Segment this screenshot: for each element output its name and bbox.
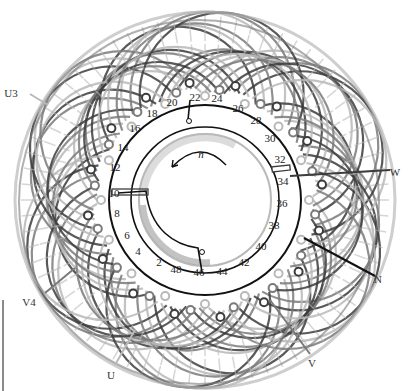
slot-number-label: 48 <box>171 263 183 275</box>
slot-number-label: 6 <box>124 229 130 241</box>
mesh-tick <box>50 213 62 214</box>
junction-46 <box>200 250 205 255</box>
slot-number-label: 20 <box>167 96 179 108</box>
mesh-tick <box>189 371 190 383</box>
slot-terminal <box>289 128 297 136</box>
mesh-tick <box>363 185 375 186</box>
slot-terminal <box>87 166 95 174</box>
slot-terminal <box>187 306 195 314</box>
slot-terminal <box>305 196 313 204</box>
mesh-tick <box>22 215 34 216</box>
slot-number-label: 14 <box>118 141 130 153</box>
mesh-tick <box>219 30 220 42</box>
mesh-tick <box>40 156 52 159</box>
slot-terminal <box>260 298 268 306</box>
mesh-tick <box>242 339 245 351</box>
mesh-tick <box>95 322 103 331</box>
slot-terminal <box>230 303 238 311</box>
slot-terminal <box>318 181 326 189</box>
mesh-tick <box>218 343 219 355</box>
slot-terminal <box>128 270 136 278</box>
mesh-tick <box>219 358 220 370</box>
slot-terminal <box>129 290 137 298</box>
slot-terminal <box>171 310 179 318</box>
terminal-label-u: U <box>107 369 115 381</box>
mesh-tick <box>359 241 371 244</box>
mesh-tick <box>22 184 34 185</box>
slot-terminal <box>232 82 240 90</box>
slot-terminal <box>297 156 305 164</box>
mesh-tick <box>191 343 192 355</box>
mesh-tick <box>50 186 62 187</box>
mesh-tick <box>95 69 103 78</box>
slot-number-label: 26 <box>233 102 245 114</box>
slot-number-label: 22 <box>190 91 201 103</box>
slot-terminal <box>315 227 323 235</box>
mesh-tick <box>307 69 315 78</box>
slot-terminal <box>161 292 169 300</box>
slot-number-label: 34 <box>278 175 290 187</box>
slot-number-label: 38 <box>269 219 281 231</box>
rings <box>84 79 326 321</box>
mesh-tick <box>37 228 49 230</box>
slot-terminal <box>297 252 305 260</box>
junction-22 <box>187 119 192 124</box>
mesh-tick <box>40 241 52 244</box>
slot-number-label: 40 <box>256 240 268 252</box>
mesh-tick <box>348 186 360 187</box>
slot-terminal <box>133 108 141 116</box>
terminal-label-v4: V4 <box>22 296 36 308</box>
slot-number-label: 30 <box>265 132 277 144</box>
mesh-tick <box>259 39 263 50</box>
mesh-tick <box>354 254 365 258</box>
mesh-tick <box>50 128 61 133</box>
mesh-tick <box>359 156 371 159</box>
slot-terminal <box>105 236 113 244</box>
slot-number-label: 4 <box>135 245 141 257</box>
mesh-tick <box>24 230 36 232</box>
slot-terminal <box>84 211 92 219</box>
mesh-tick <box>218 45 219 57</box>
mesh-tick <box>173 369 175 381</box>
mesh-tick <box>54 94 64 101</box>
mesh-tick <box>348 213 360 214</box>
slot-terminal <box>216 313 224 321</box>
winding-diagram: 2468101214161820222426283032343638404244… <box>0 0 408 391</box>
mesh-tick <box>64 82 73 90</box>
slot-terminal <box>97 196 105 204</box>
slot-number-label: 42 <box>239 256 250 268</box>
bridge-32 <box>272 165 290 172</box>
slot-terminal <box>201 300 209 308</box>
slot-terminal <box>269 284 277 292</box>
mesh-tick <box>35 185 47 186</box>
terminal-label-n: N <box>374 273 382 285</box>
slot-number-label: 10 <box>109 187 121 199</box>
slot-number-label: 16 <box>130 122 142 134</box>
mesh-tick <box>165 49 168 61</box>
slot-number-label: 46 <box>194 266 206 278</box>
slot-number-label: 12 <box>110 161 121 173</box>
mesh-tick <box>147 349 151 360</box>
slot-terminal <box>94 225 102 233</box>
slot-number-label: 28 <box>251 114 263 126</box>
slot-terminal <box>241 292 249 300</box>
mesh-tick <box>233 357 235 369</box>
mesh-tick <box>74 302 83 310</box>
slot-terminal <box>201 92 209 100</box>
slot-terminal <box>146 292 154 300</box>
slot-terminal <box>303 137 311 145</box>
terminal-label-w: W <box>390 166 401 178</box>
slot-terminal <box>107 124 115 132</box>
slot-number-label: 24 <box>212 92 224 104</box>
slot-number-label: 32 <box>275 153 286 165</box>
slot-terminal <box>142 94 150 102</box>
slot-number-label: 44 <box>217 265 229 277</box>
slot-terminal <box>273 102 281 110</box>
mesh-tick <box>190 358 191 370</box>
mesh-tick <box>32 259 43 263</box>
slot-terminal <box>99 255 107 263</box>
mesh-tick <box>220 371 221 383</box>
mesh-tick <box>44 142 55 146</box>
slot-terminal <box>105 141 113 149</box>
terminal-label-u3: U3 <box>4 87 18 99</box>
